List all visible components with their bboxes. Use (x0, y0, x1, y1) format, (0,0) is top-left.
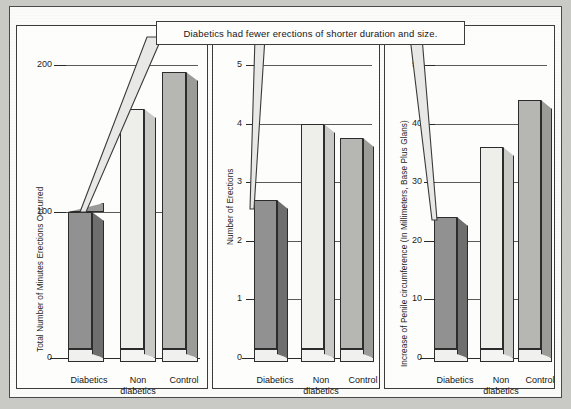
chart-3-ytick-50: 50 (394, 59, 422, 69)
chart-1-tick-100 (54, 212, 66, 213)
bar-front-face (254, 200, 277, 349)
chart-2-ytick-4: 4 (216, 118, 242, 128)
cat-label-line: diabetics (296, 386, 346, 397)
chart-1-ytick-0: 0 (20, 352, 52, 362)
cat-label-line: diabetics (476, 386, 526, 397)
callout-text: Diabetics had fewer erections of shorter… (184, 28, 438, 39)
chart-1-bar-diabetics (68, 203, 116, 367)
bar-side-face (363, 138, 374, 358)
chart-3-ytick-30: 30 (394, 176, 422, 186)
chart-1-cat-nondiabetics: Non diabetics (112, 375, 164, 397)
bar-side-face (186, 72, 198, 358)
chart-1-bar-nondiabetics (120, 100, 168, 367)
figure-page: Diabetics had fewer erections of shorter… (0, 0, 571, 409)
chart-2-bar-diabetics (254, 191, 298, 367)
chart-2-ytick-2: 2 (216, 235, 242, 245)
chart-2-cat-control: Control (338, 375, 388, 386)
chart-1-tick-200 (54, 65, 66, 66)
chart-1-bar-control (162, 63, 210, 367)
chart-2-bar-control (340, 129, 384, 367)
chart-3-cat-control: Control (515, 375, 565, 386)
bar-front-face (68, 212, 92, 349)
bar-front-face (518, 100, 541, 349)
chart-1-tick-0 (54, 358, 66, 359)
chart-3-bar-control (518, 91, 562, 367)
bar-side-face (457, 217, 468, 358)
chart-2-tick-5 (246, 65, 256, 66)
chart-2-tick-3 (246, 182, 256, 183)
cat-label-line: Control (158, 375, 210, 386)
chart-3-ytick-40: 40 (394, 118, 422, 128)
bar-top-face (68, 203, 104, 212)
chart-2-ytick-3: 3 (216, 176, 242, 186)
bar-front-face (480, 147, 503, 349)
chart-3-bar-diabetics (434, 208, 478, 367)
bar-side-face (324, 124, 335, 358)
chart-2-ytick-5: 5 (216, 59, 242, 69)
bar-side-face (503, 147, 514, 358)
bar-front-face (340, 138, 363, 349)
cat-label-line: Non (112, 375, 164, 386)
chart-3-tick-40 (424, 124, 435, 125)
chart-1-cat-diabetics: Diabetics (58, 375, 120, 386)
chart-3-tick-50 (424, 65, 435, 66)
chart-2-gridline-5 (254, 65, 372, 66)
cat-label-line: Diabetics (58, 375, 120, 386)
chart-3-ytick-10: 10 (394, 293, 422, 303)
callout-banner: Diabetics had fewer erections of shorter… (156, 21, 465, 45)
bar-side-face (144, 109, 156, 358)
chart-3-tick-30 (424, 182, 435, 183)
cat-label-line: Control (515, 375, 565, 386)
chart-2-ytick-0: 0 (216, 352, 242, 362)
cat-label-line: diabetics (112, 386, 164, 397)
bar-side-face (277, 200, 288, 358)
bar-side-face (92, 212, 104, 358)
scanned-sheet: Diabetics had fewer erections of shorter… (9, 6, 562, 398)
bar-front-face (301, 124, 324, 349)
chart-2-ytick-1: 1 (216, 293, 242, 303)
chart-3-ytick-0: 0 (394, 352, 422, 362)
chart-3-gridline-50 (434, 65, 547, 66)
chart-3-ytick-20: 20 (394, 235, 422, 245)
chart-1-cat-control: Control (158, 375, 210, 386)
cat-label-line: Control (338, 375, 388, 386)
chart-1-ytick-100: 100 (20, 206, 52, 216)
bar-side-face (541, 100, 552, 358)
bar-front-face (162, 72, 186, 349)
bar-front-face (434, 217, 457, 349)
chart-2-tick-4 (246, 124, 256, 125)
chart-2-bar-nondiabetics (301, 115, 345, 367)
bar-front-face (120, 109, 144, 349)
chart-1-ytick-200: 200 (20, 59, 52, 69)
